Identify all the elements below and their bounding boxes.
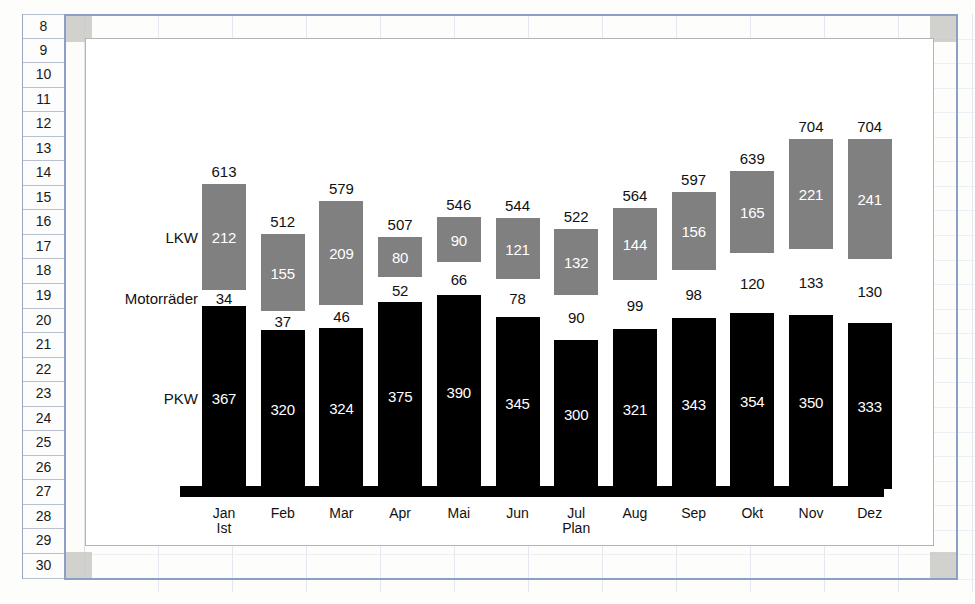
x-axis-label-sublabel: Ist [192, 521, 256, 536]
bar-total-label: 544 [493, 197, 543, 214]
row-header-8[interactable]: 8 [23, 14, 65, 39]
resize-handle-bottom-right[interactable] [930, 552, 956, 578]
row-header-13[interactable]: 13 [23, 137, 65, 162]
bar-value-label-motorraeder: 133 [789, 274, 833, 291]
bar-value-label-lkw: 155 [261, 265, 305, 282]
bar-value-label-lkw: 144 [613, 236, 657, 253]
bar-value-label-lkw: 241 [848, 191, 892, 208]
bar-value-label-motorraeder: 78 [496, 290, 540, 307]
bar-value-label-pkw: 300 [554, 406, 598, 423]
x-axis-label-sublabel: Plan [544, 521, 608, 536]
row-header-15[interactable]: 15 [23, 186, 65, 211]
row-header-30[interactable]: 30 [23, 554, 65, 579]
bar-total-label: 512 [258, 213, 308, 230]
x-axis-label: Mar [309, 506, 373, 521]
chart-plot-frame[interactable]: 36734212613JanIst32037155512Feb324462095… [85, 38, 934, 546]
row-header-20[interactable]: 20 [23, 309, 65, 334]
x-axis-label: JanIst [192, 506, 256, 536]
bar-total-label: 704 [845, 118, 895, 135]
bar-total-label: 613 [199, 163, 249, 180]
x-axis-label-month: Nov [779, 506, 843, 521]
row-header-9[interactable]: 9 [23, 39, 65, 64]
row-header-27[interactable]: 27 [23, 480, 65, 505]
bar-value-label-lkw: 90 [437, 232, 481, 249]
x-axis-label-month: Sep [662, 506, 726, 521]
x-axis-label-month: Okt [720, 506, 784, 521]
bar-value-label-pkw: 321 [613, 401, 657, 418]
x-axis-label: Okt [720, 506, 784, 521]
bar-total-label: 704 [786, 118, 836, 135]
bar-value-label-pkw: 375 [378, 388, 422, 405]
row-header-23[interactable]: 23 [23, 382, 65, 407]
bar-value-label-motorraeder: 99 [613, 297, 657, 314]
x-axis-label-month: Aug [603, 506, 667, 521]
series-label-motorraeder: Motorräder [125, 290, 198, 307]
row-header-25[interactable]: 25 [23, 431, 65, 456]
bar-value-label-motorraeder: 52 [378, 282, 422, 299]
x-axis-label: Mai [427, 506, 491, 521]
bar-value-label-motorraeder: 46 [319, 308, 363, 325]
row-header-11[interactable]: 11 [23, 88, 65, 113]
bar-value-label-pkw: 343 [672, 396, 716, 413]
x-axis-label: Aug [603, 506, 667, 521]
bar-value-label-motorraeder: 90 [554, 309, 598, 326]
row-header-18[interactable]: 18 [23, 259, 65, 284]
row-header-22[interactable]: 22 [23, 358, 65, 383]
x-axis-label: JulPlan [544, 506, 608, 536]
row-header-29[interactable]: 29 [23, 529, 65, 554]
row-header-10[interactable]: 10 [23, 63, 65, 88]
row-header-26[interactable]: 26 [23, 456, 65, 481]
resize-handle-bottom-left[interactable] [66, 552, 92, 578]
x-axis-label-month: Feb [251, 506, 315, 521]
bar-value-label-motorraeder: 130 [848, 283, 892, 300]
x-axis-label-month: Mar [309, 506, 373, 521]
bar-value-label-pkw: 367 [202, 390, 246, 407]
x-axis-label-month: Mai [427, 506, 491, 521]
bar-value-label-pkw: 350 [789, 394, 833, 411]
bar-value-label-lkw: 165 [730, 204, 774, 221]
bar-value-label-motorraeder: 98 [672, 286, 716, 303]
x-axis-label: Apr [368, 506, 432, 521]
bar-total-label: 522 [551, 208, 601, 225]
x-axis-label: Dez [838, 506, 902, 521]
row-header-19[interactable]: 19 [23, 284, 65, 309]
series-label-lkw: LKW [165, 229, 198, 246]
x-axis-label-month: Jan [192, 506, 256, 521]
x-axis-label-month: Dez [838, 506, 902, 521]
row-header-14[interactable]: 14 [23, 161, 65, 186]
bar-value-label-motorraeder: 66 [437, 271, 481, 288]
row-header-17[interactable]: 17 [23, 235, 65, 260]
x-axis-label: Sep [662, 506, 726, 521]
row-header-16[interactable]: 16 [23, 210, 65, 235]
chart-plot-area: 36734212613JanIst32037155512Feb324462095… [86, 39, 935, 547]
row-header-12[interactable]: 12 [23, 112, 65, 137]
bar-total-label: 639 [727, 150, 777, 167]
bar-value-label-motorraeder: 37 [261, 313, 305, 330]
bar-value-label-lkw: 80 [378, 249, 422, 266]
bar-value-label-pkw: 390 [437, 384, 481, 401]
bar-value-label-motorraeder: 34 [202, 290, 246, 307]
row-header-24[interactable]: 24 [23, 407, 65, 432]
bar-value-label-lkw: 209 [319, 245, 363, 262]
bar-total-label: 597 [669, 171, 719, 188]
bar-value-label-lkw: 212 [202, 229, 246, 246]
x-axis-label-month: Jul [544, 506, 608, 521]
row-header-gutter[interactable]: 8910111213141516171819202122232425262728… [22, 14, 65, 579]
spreadsheet-background: 8910111213141516171819202122232425262728… [0, 0, 975, 604]
bar-value-label-lkw: 221 [789, 186, 833, 203]
x-axis-label: Nov [779, 506, 843, 521]
row-header-21[interactable]: 21 [23, 333, 65, 358]
bar-value-label-lkw: 156 [672, 223, 716, 240]
x-axis-label-month: Jun [486, 506, 550, 521]
x-axis-baseline [180, 486, 884, 497]
row-header-28[interactable]: 28 [23, 505, 65, 530]
bar-total-label: 507 [375, 216, 425, 233]
x-axis-label: Feb [251, 506, 315, 521]
bar-value-label-lkw: 132 [554, 254, 598, 271]
bar-value-label-pkw: 320 [261, 401, 305, 418]
x-axis-label: Jun [486, 506, 550, 521]
bar-value-label-pkw: 324 [319, 400, 363, 417]
bar-total-label: 579 [316, 180, 366, 197]
x-axis-label-month: Apr [368, 506, 432, 521]
bar-total-label: 546 [434, 196, 484, 213]
